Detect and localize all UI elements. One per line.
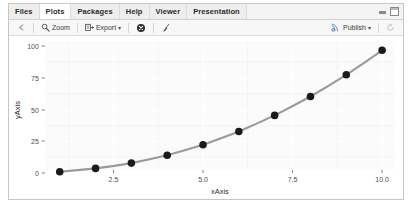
plots-pane-window: Files Plots Packages Help Viewer Present… xyxy=(8,3,404,200)
y-tick-label-100: 100 xyxy=(27,43,39,50)
scatter-line-chart: 0 25 50 75 100 2.5 5.0 7.5 10.0 xAxis yA… xyxy=(9,36,403,199)
data-point xyxy=(271,112,279,120)
data-point xyxy=(92,165,100,173)
export-button[interactable]: Export ▾ xyxy=(81,21,125,34)
tab-files[interactable]: Files xyxy=(9,4,40,19)
tab-help-label: Help xyxy=(126,7,143,16)
tab-help[interactable]: Help xyxy=(120,4,150,19)
window-controls xyxy=(374,4,403,19)
tab-bar-filler xyxy=(247,4,374,19)
plot-canvas: 0 25 50 75 100 2.5 5.0 7.5 10.0 xAxis yA… xyxy=(9,36,403,199)
toolbar-divider-4 xyxy=(153,23,154,33)
minimize-icon[interactable] xyxy=(378,7,387,16)
data-point xyxy=(199,141,207,149)
x-axis-title: xAxis xyxy=(211,187,229,196)
back-arrow-icon xyxy=(17,23,26,32)
toolbar-divider-5 xyxy=(378,23,379,33)
y-tick-label-25: 25 xyxy=(31,138,39,145)
magnifier-icon xyxy=(41,23,50,32)
clear-all-plots-icon xyxy=(161,23,171,33)
tab-packages[interactable]: Packages xyxy=(71,4,119,19)
toolbar-divider-3 xyxy=(128,23,129,33)
zoom-button[interactable]: Zoom xyxy=(37,21,74,34)
tab-presentation[interactable]: Presentation xyxy=(187,4,247,19)
publish-icon xyxy=(331,23,341,32)
remove-plot-button[interactable] xyxy=(132,21,150,34)
y-axis-ticks xyxy=(42,46,45,173)
chevron-down-icon: ▾ xyxy=(368,25,371,31)
tab-viewer-label: Viewer xyxy=(156,7,181,16)
back-button[interactable] xyxy=(13,21,30,34)
toolbar-divider-2 xyxy=(77,23,78,33)
tab-packages-label: Packages xyxy=(77,7,112,16)
plot-panel-background xyxy=(45,42,395,170)
clear-all-plots-button[interactable] xyxy=(157,21,175,34)
toolbar-divider-1 xyxy=(33,23,34,33)
y-tick-label-0: 0 xyxy=(35,170,39,177)
tab-viewer[interactable]: Viewer xyxy=(150,4,188,19)
data-point xyxy=(56,168,64,176)
tab-plots-label: Plots xyxy=(46,7,65,16)
data-point xyxy=(235,128,243,136)
x-tick-label-2.5: 2.5 xyxy=(109,176,119,183)
chevron-down-icon: ▾ xyxy=(118,25,121,31)
zoom-button-label: Zoom xyxy=(52,24,70,31)
data-point xyxy=(378,47,386,55)
remove-plot-icon xyxy=(136,23,146,33)
data-point xyxy=(307,93,315,101)
data-point xyxy=(163,152,171,160)
publish-button-label: Publish xyxy=(343,24,366,31)
x-tick-label-5.0: 5.0 xyxy=(198,176,208,183)
x-tick-label-10.0: 10.0 xyxy=(375,176,389,183)
tab-files-label: Files xyxy=(15,7,33,16)
x-tick-label-7.5: 7.5 xyxy=(288,176,298,183)
pane-tab-bar: Files Plots Packages Help Viewer Present… xyxy=(9,4,403,20)
export-button-label: Export xyxy=(96,24,116,31)
data-point xyxy=(343,71,351,79)
y-tick-label-50: 50 xyxy=(31,107,39,114)
publish-button[interactable]: Publish ▾ xyxy=(327,21,375,34)
y-tick-label-75: 75 xyxy=(31,75,39,82)
tab-presentation-label: Presentation xyxy=(193,7,240,16)
export-icon xyxy=(85,23,94,32)
refresh-icon xyxy=(386,23,395,32)
data-point xyxy=(128,159,136,167)
maximize-icon[interactable] xyxy=(390,7,399,16)
plots-toolbar: Zoom Export ▾ xyxy=(9,20,403,36)
y-axis-title: yAxis xyxy=(13,101,22,119)
refresh-button[interactable] xyxy=(382,21,399,34)
tab-plots[interactable]: Plots xyxy=(40,4,72,19)
